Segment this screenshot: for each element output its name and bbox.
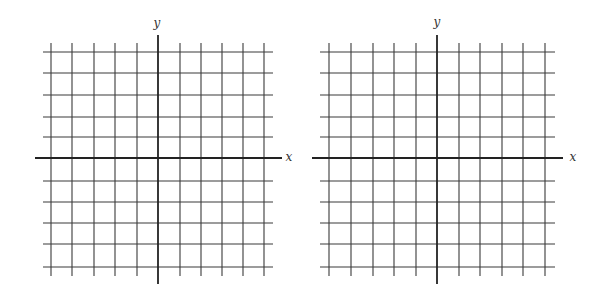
diagram-canvas: x y x y — [0, 0, 608, 298]
left-coordinate-plane: x y — [35, 16, 293, 284]
right-y-axis-label: y — [433, 15, 441, 29]
right-x-axis-label: x — [570, 150, 577, 164]
right-coordinate-plane: x y — [312, 15, 577, 284]
left-y-axis-label: y — [153, 16, 161, 30]
right-axes — [312, 35, 563, 284]
left-x-axis-label: x — [286, 150, 293, 164]
grids-svg: x y x y — [0, 0, 608, 298]
